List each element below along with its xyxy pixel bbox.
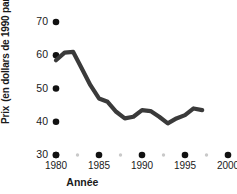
x-axis-minor-dot [119, 153, 122, 156]
data-line-prix [56, 52, 202, 123]
price-line-chart: Prix (en dollars de 1990 par tonne) 3040… [0, 0, 237, 194]
y-axis-tick-dot [53, 85, 60, 92]
x-axis-minor-dot [76, 153, 79, 156]
y-axis-tick-dot [53, 118, 60, 125]
y-axis-tick-dot [53, 152, 60, 159]
x-axis-minor-dot [205, 153, 208, 156]
x-axis-minor-dot [162, 153, 165, 156]
x-axis-tick-dot [139, 152, 146, 159]
plot-area [0, 0, 237, 194]
x-axis-tick-dot [225, 152, 232, 159]
x-axis-tick-dot [182, 152, 189, 159]
x-axis-tick-dot [96, 152, 103, 159]
x-axis-title: Année [66, 176, 98, 188]
y-axis-tick-dot [53, 19, 60, 26]
